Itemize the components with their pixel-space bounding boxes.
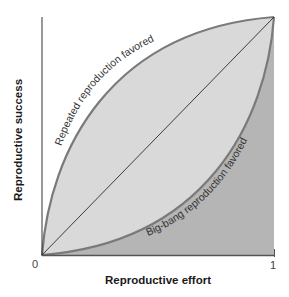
tradeoff-diagram: Repeated reproduction favored Big-bang r… bbox=[0, 0, 289, 297]
x-axis-title: Reproductive effort bbox=[105, 274, 211, 286]
y-axis-title: Reproductive success bbox=[12, 79, 24, 201]
x-tick-label-max: 1 bbox=[270, 259, 276, 271]
x-tick-label-min: 0 bbox=[32, 258, 38, 270]
